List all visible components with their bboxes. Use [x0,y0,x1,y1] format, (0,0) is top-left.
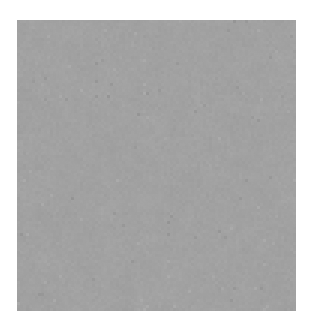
caption-fragment-right [176,0,254,7]
grayscale-noise-image [17,20,296,311]
page-root [0,0,313,326]
noise-canvas [17,20,296,311]
caption-fragment-left [19,0,120,7]
clipped-caption-strip [0,0,313,8]
caption-line [0,0,313,7]
